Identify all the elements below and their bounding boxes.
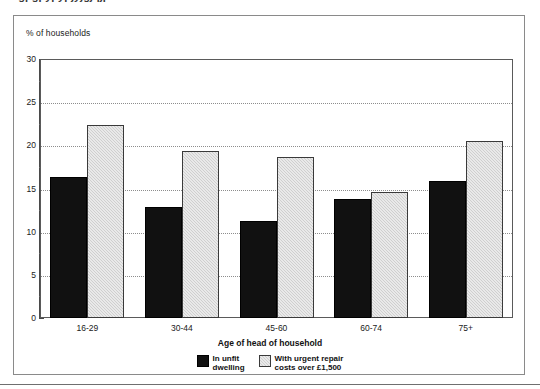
bar-60-74-series-2: [371, 192, 408, 318]
y-tick-label-20: 20: [14, 141, 36, 150]
x-tick-label-30-44: 30-44: [135, 324, 230, 333]
bar-75+-series-1: [429, 181, 466, 318]
x-axis-title: Age of head of household: [14, 338, 526, 348]
bar-45-60-series-2: [277, 157, 314, 318]
chart-figure: % of households 051015202530 16-2930-444…: [13, 15, 525, 375]
legend-item-unfit: In unfit dwelling: [197, 354, 245, 372]
y-axis-unit-label: % of households: [26, 28, 90, 38]
bar-30-44-series-2: [182, 151, 219, 318]
bar-60-74-series-1: [334, 199, 371, 318]
x-tick-label-16-29: 16-29: [40, 324, 135, 333]
bar-45-60-series-1: [240, 221, 277, 318]
y-tick-label-25: 25: [14, 98, 36, 107]
bar-30-44-series-1: [145, 207, 182, 318]
y-tick-label-15: 15: [14, 185, 36, 194]
bar-series-container: [40, 59, 513, 318]
legend: In unfit dwelling With urgent repair cos…: [14, 354, 526, 372]
legend-swatch-unfit: [197, 355, 209, 367]
y-tick-label-5: 5: [14, 271, 36, 280]
x-tick-label-75+: 75+: [418, 324, 513, 333]
bar-16-29-series-2: [87, 125, 124, 318]
legend-swatch-repair: [259, 355, 271, 367]
clipped-title: aaagpgpypypjyjgjqjp: [0, 0, 540, 9]
bar-16-29-series-1: [50, 177, 87, 318]
legend-item-repair: With urgent repair costs over £1,500: [259, 354, 344, 372]
bar-75+-series-2: [466, 141, 503, 318]
legend-label-unfit: In unfit dwelling: [213, 354, 245, 372]
y-tick-major-0: [39, 318, 44, 319]
footer-rule: [0, 384, 540, 385]
legend-label-repair: With urgent repair costs over £1,500: [275, 354, 344, 372]
x-tick-label-45-60: 45-60: [229, 324, 324, 333]
y-tick-label-30: 30: [14, 55, 36, 64]
x-tick-label-60-74: 60-74: [324, 324, 419, 333]
y-tick-label-10: 10: [14, 228, 36, 237]
y-tick-label-0: 0: [14, 314, 36, 323]
